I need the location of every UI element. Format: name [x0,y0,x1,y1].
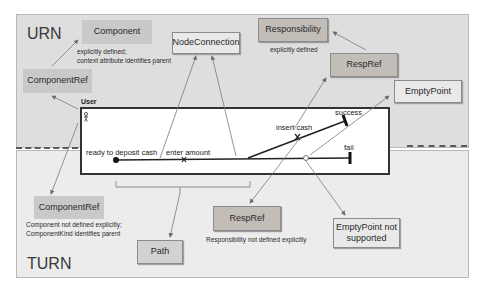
divider-left [16,147,78,149]
turn-respref-label: RespRef [229,213,264,224]
turn-respref-box[interactable]: RespRef [213,206,281,231]
urn-component-note-line1: explicitly defined; [77,48,171,57]
urn-emptypoint-box[interactable]: EmptyPoint [394,80,462,103]
urn-component-note: explicitly defined; context attribute id… [77,48,171,66]
turn-componentref-label: ComponentRef [39,202,100,213]
urn-responsibility-note: explicitly defined [270,46,318,55]
turn-emptypoint-box[interactable]: EmptyPoint not supported [333,218,400,248]
turn-emptypoint-label-line2: supported [336,233,397,244]
urn-responsibility-box[interactable]: Responsibility [258,18,328,42]
ucm-component-user[interactable] [80,107,390,175]
divider-right [407,145,467,147]
urn-emptypoint-label: EmptyPoint [405,86,451,97]
turn-path-label: Path [151,246,170,257]
turn-componentref-note-line1: Component not defined explicitly; [26,221,122,230]
urn-responsibility-label: Responsibility [265,24,321,35]
component-label-user: User [81,98,97,105]
turn-title: TURN [27,255,71,273]
turn-componentref-box[interactable]: ComponentRef [34,196,104,219]
urn-nodeconnection-box[interactable]: NodeConnection [172,32,240,54]
urn-title: URN [27,25,62,43]
turn-path-box[interactable]: Path [137,240,183,264]
responsibility-enter-amount-label: enter amount [166,148,210,157]
responsibility-insert-cash-label: insert cash [276,123,312,132]
urn-respref-label: RespRef [346,59,381,70]
turn-componentref-note-line2: ComponentKind identifies parent [26,230,122,239]
urn-component-box[interactable]: Component [82,20,152,44]
urn-componentref-box[interactable]: ComponentRef [23,69,92,93]
urn-componentref-label: ComponentRef [27,75,88,86]
end-point-fail-label: fail [344,143,354,152]
turn-componentref-note: Component not defined explicitly; Compon… [26,221,122,239]
urn-component-label: Component [94,26,141,37]
start-point-label: ready to deposit cash [86,148,157,157]
urn-respref-box[interactable]: RespRef [330,53,398,77]
turn-emptypoint-label-line1: EmptyPoint not [336,222,397,233]
turn-respref-note: Responsibility not defined explicitly [206,236,306,245]
end-point-success-label: success [335,108,362,117]
urn-nodeconnection-label: NodeConnection [172,37,239,48]
urn-component-note-line2: context attribute identifies parent [77,57,171,66]
